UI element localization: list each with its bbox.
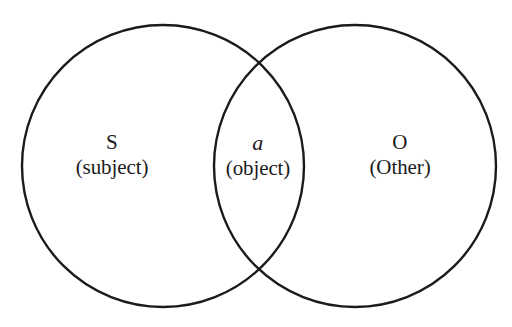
region-symbol-object: a (188, 131, 328, 154)
region-gloss-object: (object) (188, 157, 328, 179)
region-symbol-other: O (330, 131, 470, 153)
region-label-object: a (object) (188, 131, 328, 180)
venn-diagram: S (subject) a (object) O (Other) (0, 0, 512, 327)
region-gloss-other: (Other) (330, 156, 470, 178)
region-symbol-subject: S (42, 131, 182, 153)
region-label-other: O (Other) (330, 131, 470, 179)
region-label-subject: S (subject) (42, 131, 182, 179)
region-gloss-subject: (subject) (42, 156, 182, 178)
